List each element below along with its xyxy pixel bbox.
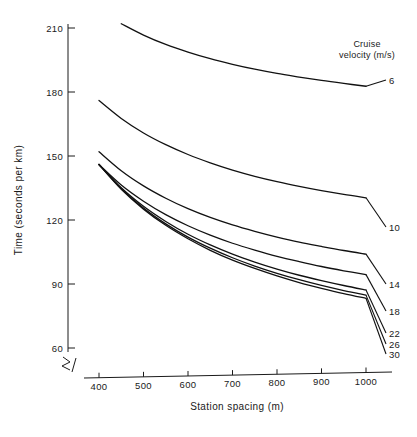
x-axis-title: Station spacing (m) — [190, 401, 284, 412]
legend-title-line1: Cruise — [353, 39, 380, 49]
x-tick-group: 4005006007008009001000 — [91, 368, 378, 392]
series-label-6: 6 — [389, 75, 395, 86]
series-label-22: 22 — [389, 328, 400, 339]
x-axis-line — [84, 372, 392, 378]
y-tick-label-150: 150 — [46, 151, 63, 162]
x-tick-label-600: 600 — [180, 379, 197, 390]
x-tick-label-700: 700 — [224, 378, 241, 389]
y-tick-group: 6090120150180210 — [46, 23, 75, 354]
curve-velocity-6 — [121, 24, 366, 87]
y-tick-label-90: 90 — [52, 279, 63, 290]
leader-line-10 — [366, 198, 386, 227]
chart-container: 6090120150180210 4005006007008009001000 … — [0, 0, 417, 437]
x-tick-label-500: 500 — [135, 380, 152, 391]
series-label-group: 6101418222630 — [366, 75, 400, 360]
x-tick-label-400: 400 — [91, 381, 108, 392]
series-label-14: 14 — [389, 279, 400, 290]
x-tick-label-1000: 1000 — [355, 376, 377, 387]
time-vs-station-spacing-chart: 6090120150180210 4005006007008009001000 … — [0, 0, 417, 437]
axes-group — [68, 24, 392, 378]
y-tick-label-120: 120 — [46, 215, 63, 226]
x-tick-label-900: 900 — [313, 376, 330, 387]
leader-line-6 — [366, 80, 386, 86]
y-tick-label-60: 60 — [52, 343, 63, 354]
x-tick-label-800: 800 — [269, 377, 286, 388]
curve-velocity-30 — [99, 165, 366, 299]
series-label-18: 18 — [389, 306, 400, 317]
axis-break-icon — [62, 357, 76, 372]
legend-title-line2: velocity (m/s) — [339, 50, 395, 60]
y-tick-label-210: 210 — [46, 23, 63, 34]
curve-velocity-26 — [99, 165, 366, 296]
series-curves-group — [99, 24, 366, 299]
y-tick-label-180: 180 — [46, 87, 63, 98]
y-axis-title: Time (seconds per km) — [13, 145, 24, 255]
series-label-10: 10 — [389, 222, 400, 233]
leader-line-26 — [366, 295, 386, 344]
series-label-30: 30 — [389, 349, 400, 360]
